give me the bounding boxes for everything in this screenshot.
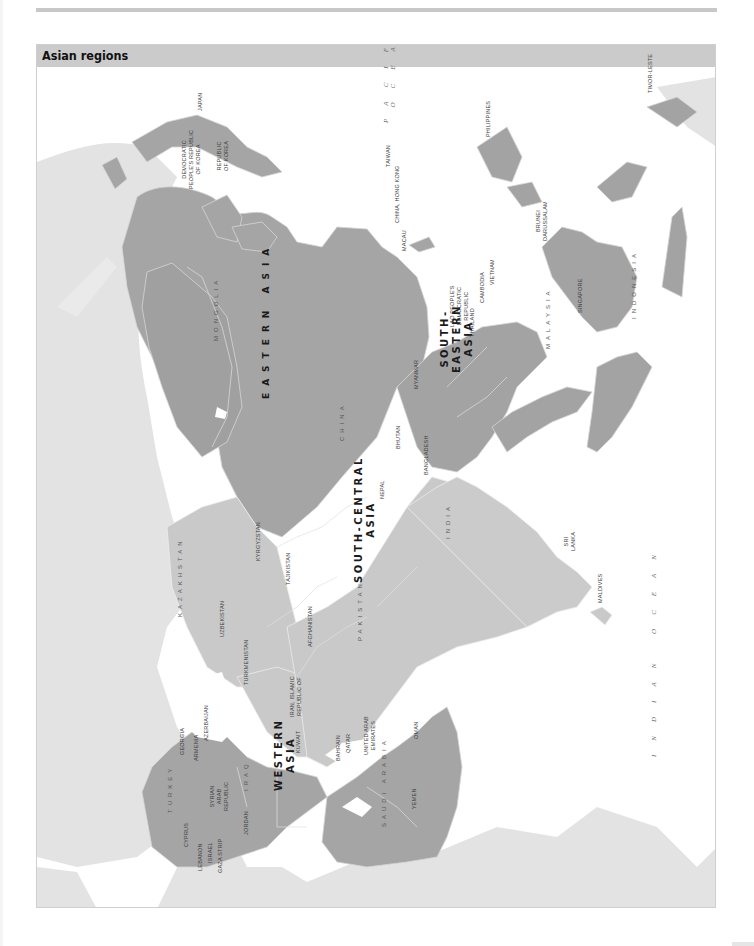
figure-header: Asian regions <box>37 45 715 67</box>
country-label-thailand: THAILAND <box>469 308 476 337</box>
label-line: ARAB <box>216 782 223 811</box>
country-label-china: CHINA <box>339 402 346 441</box>
country-label-yemen: YEMEN <box>411 788 418 809</box>
region-label-line: SOUTH-CENTRAL <box>353 456 365 583</box>
country-label-bangladesh: BANGLADESH <box>423 435 430 475</box>
page-edge <box>0 0 3 946</box>
country-label-japan: JAPAN <box>197 93 204 111</box>
country-label-india: INDIA <box>445 503 452 539</box>
country-label-lao: LAO PEOPLE'S DEMOCRATIC REPUBLIC <box>449 285 470 327</box>
label-line: DARUSSALAM <box>542 201 549 241</box>
country-label-azerbaijan: AZERBAIJAN <box>203 705 210 741</box>
region-label-south-central-asia: SOUTH-CENTRAL ASIA <box>353 456 377 583</box>
country-label-lebanon: LEBANON <box>197 843 204 871</box>
country-label-singapore: SINGAPORE <box>577 278 584 313</box>
region-label-line: WESTERN <box>273 719 285 791</box>
country-label-bahrain: BAHRAIN <box>335 735 342 761</box>
figure-title: Asian regions <box>42 48 128 63</box>
country-label-indonesia: INDONESIA <box>631 250 638 319</box>
label-line: IRAN, ISLAMIC <box>289 676 296 717</box>
country-label-iraq: IRAQ <box>243 760 250 791</box>
region-label-western-asia: WESTERN ASIA <box>273 719 297 791</box>
ocean-label-pacific: PACIFIC OCEAN <box>383 44 397 123</box>
country-label-afghanistan: AFGHANISTAN <box>307 606 314 647</box>
country-label-uzbekistan: UZBEKISTAN <box>219 601 226 637</box>
country-label-nepal: NEPAL <box>379 480 386 499</box>
country-label-vietnam: VIETNAM <box>489 259 496 285</box>
country-label-malaysia: MALAYSIA <box>545 287 552 349</box>
country-label-pakistan: PAKISTAN <box>357 580 364 641</box>
country-label-tajikistan: TAJIKISTAN <box>285 553 292 585</box>
region-label-eastern-asia: EASTERN ASIA <box>263 242 270 399</box>
label-line: LANKA <box>570 532 577 551</box>
country-label-maldives: MALDIVES <box>597 574 604 603</box>
country-label-republic-of-korea: REPUBLIC OF KOREA <box>216 141 230 171</box>
country-label-saudi-arabia: SAUDI ARABIA <box>381 737 388 827</box>
country-label-macau: MACAU <box>401 230 408 251</box>
label-line: EMIRATES <box>370 716 377 755</box>
country-label-taiwan: TAIWAN <box>385 145 392 167</box>
label-line: DEMOCRATIC <box>181 130 188 189</box>
country-label-hong-kong: CHINA, HONG KONG <box>394 165 401 223</box>
label-line: REPUBLIC OF <box>296 676 303 717</box>
region-south-eastern-asia <box>397 97 697 472</box>
country-label-georgia: GEORGIA <box>179 728 186 755</box>
country-label-myanmar: MYANMAR <box>413 360 420 389</box>
country-label-kazakhstan: KAZAKHSTAN <box>177 537 184 617</box>
top-rule-divider <box>36 8 717 12</box>
country-label-bhutan: BHUTAN <box>395 426 402 449</box>
country-label-brunei: BRUNEI DARUSSALAM <box>535 201 549 241</box>
region-label-line: ASIA <box>285 719 297 791</box>
ocean-label-indian: INDIAN OCEAN <box>651 541 658 757</box>
label-line: REPUBLIC <box>223 782 230 811</box>
country-label-turkmenistan: TURKMENISTAN <box>243 640 250 685</box>
country-label-israel: ISRAEL <box>207 842 214 863</box>
label-line: SRI <box>563 532 570 551</box>
label-line: OF KOREA <box>223 141 230 171</box>
label-line: OF KOREA <box>195 130 202 189</box>
asia-regions-map: EASTERN ASIA SOUTH- EASTERN ASIA SOUTH-C… <box>37 67 716 908</box>
label-line: SYRIAN <box>209 782 216 811</box>
label-line: LAO PEOPLE'S <box>449 285 456 327</box>
country-label-gaza-strip: GAZA STRIP <box>217 839 224 873</box>
country-label-kuwait: KUWAIT <box>295 731 302 753</box>
map-figure: Asian regions <box>36 44 716 908</box>
country-label-uae: UNITED ARAB EMIRATES <box>363 716 377 755</box>
country-label-mongolia: MONGOLIA <box>213 277 220 341</box>
label-line: UNITED ARAB <box>363 716 370 755</box>
country-label-sri-lanka: SRI LANKA <box>563 532 577 551</box>
country-label-armenia: ARMENIA <box>193 735 200 761</box>
label-line: DEMOCRATIC <box>456 285 463 327</box>
label-line: PEOPLE'S REPUBLIC <box>188 130 195 189</box>
country-label-cambodia: CAMBODIA <box>479 272 486 303</box>
country-label-dprk: DEMOCRATIC PEOPLE'S REPUBLIC OF KOREA <box>181 130 202 189</box>
country-label-qatar: QATAR <box>345 734 352 753</box>
country-label-philippines: PHILIPPINES <box>485 101 492 137</box>
country-label-oman: OMAN <box>413 722 420 739</box>
country-label-syria: SYRIAN ARAB REPUBLIC <box>209 782 230 811</box>
region-label-line: ASIA <box>365 456 377 583</box>
label-line: BRUNEI <box>535 201 542 241</box>
country-label-jordan: JORDAN <box>243 811 250 835</box>
ocean-label-line: OCEAN <box>390 44 397 123</box>
country-label-kyrgyzstan: KYRGYZSTAN <box>255 522 262 561</box>
label-line: REPUBLIC <box>216 141 223 171</box>
country-label-cyprus: CYPRUS <box>183 823 190 847</box>
country-label-turkey: TURKEY <box>167 765 174 813</box>
country-label-iran: IRAN, ISLAMIC REPUBLIC OF <box>289 676 303 717</box>
page-corner-mark <box>732 942 754 946</box>
country-label-timor-leste: TIMOR-LESTE <box>647 54 654 93</box>
